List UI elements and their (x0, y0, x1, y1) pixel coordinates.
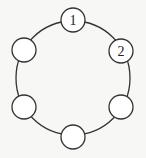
node-lower-left (12, 95, 36, 119)
node-circle (12, 95, 36, 119)
outer-ring (16, 21, 130, 135)
node-upper-left (12, 38, 36, 62)
node-circle (109, 95, 133, 119)
node-top: 1 (61, 8, 85, 32)
node-circle (61, 125, 85, 149)
node-label: 2 (118, 44, 125, 59)
node-upper-right: 2 (109, 39, 133, 63)
node-lower-right (109, 95, 133, 119)
node-circle (12, 38, 36, 62)
node-label: 1 (70, 13, 77, 28)
node-bottom (61, 125, 85, 149)
ring-diagram: 12 (0, 0, 146, 158)
